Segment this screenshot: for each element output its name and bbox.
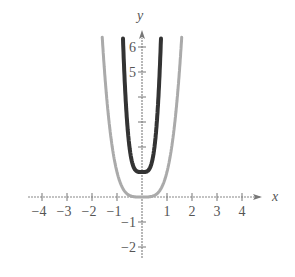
x-tick-label: 4 — [239, 204, 246, 219]
chart-plot: −4−3−2−11234−2−156xy — [0, 0, 295, 277]
y-tick-label: 6 — [129, 40, 136, 55]
x-tick-label: 2 — [189, 204, 196, 219]
x-tick-label: 3 — [214, 204, 221, 219]
x-tick-label: 1 — [164, 204, 171, 219]
y-axis-label: y — [135, 8, 144, 23]
x-axis-label: x — [271, 189, 279, 204]
y-axis-arrow-icon — [139, 30, 145, 39]
y-tick-label: −1 — [121, 215, 136, 230]
x-tick-label: −2 — [82, 204, 97, 219]
y-tick-label: 5 — [129, 65, 136, 80]
axes — [28, 30, 262, 258]
x-tick-label: −4 — [32, 204, 47, 219]
x-tick-label: −1 — [107, 204, 122, 219]
x-tick-label: −3 — [57, 204, 72, 219]
y-tick-label: −2 — [121, 240, 136, 255]
